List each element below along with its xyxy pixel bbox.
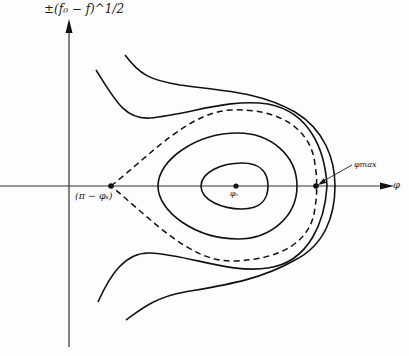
outer-trajectory-2 — [125, 55, 335, 320]
y-axis-label: ±(f₀ − f)^1/2 — [44, 2, 124, 16]
max-leader-arrow-icon — [318, 178, 326, 185]
cusp-label: (π − φₛ) — [75, 190, 113, 201]
phi-max-label: φmax — [354, 160, 376, 169]
cusp-point — [108, 183, 114, 189]
x-axis-label: φ — [393, 179, 400, 190]
max-point — [313, 183, 319, 189]
x-axis-arrow-icon — [380, 183, 394, 190]
phase-diagram: ±(f₀ − f)^1/2 φ (π − φₛ) φₛ φmax — [0, 0, 409, 356]
diagram-canvas — [0, 0, 409, 356]
center-label: φₛ — [230, 189, 238, 198]
center-point — [233, 183, 238, 188]
y-axis-arrow-icon — [66, 19, 73, 33]
